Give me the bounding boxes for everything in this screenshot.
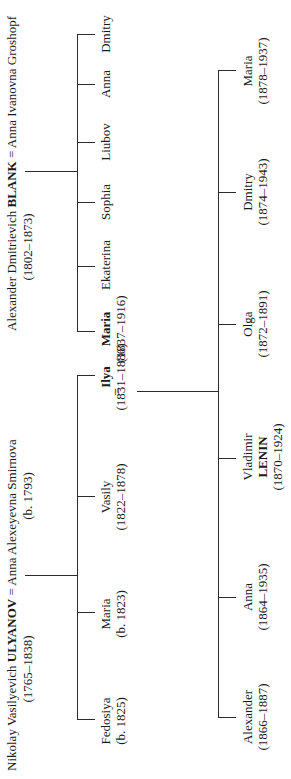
lenin-child-drop xyxy=(218,192,236,193)
sibling-dates: (1870–1924) xyxy=(270,423,285,490)
lenin-child-drop xyxy=(218,717,236,718)
sibling-name: Dmitry xyxy=(240,158,255,225)
child-name: Liubov xyxy=(98,123,113,161)
ulyanov-child: Fedosiya (b. 1825) xyxy=(98,697,128,745)
marriage-sign: = xyxy=(4,588,19,595)
ulyanov-husband-name: Nikolay Vasilyevich xyxy=(4,662,19,771)
blank-child: Liubov xyxy=(98,123,113,161)
blank-child-maria: Maria (1837–1916) xyxy=(98,295,128,362)
marriage-sign-ilya-maria: = xyxy=(110,388,125,396)
blank-husband: Alexander Dmitrievich BLANK = Anna Ivano… xyxy=(4,16,19,331)
blank-child-drop xyxy=(77,142,95,143)
blank-descent-line xyxy=(25,171,77,172)
marriage-sign: = xyxy=(4,151,19,158)
child-dates: (b. 1825) xyxy=(113,697,128,745)
ulyanov-child: Vasily (1822–1878) xyxy=(98,463,128,530)
ulyanov-child-drop xyxy=(77,375,95,376)
marriage-descent-line xyxy=(137,391,218,392)
blank-surname: BLANK xyxy=(4,161,19,207)
ulyanov-descent-line xyxy=(25,575,77,576)
ulyanov-husband: Nikolay Vasilyevich ULYANOV = Anna Alexe… xyxy=(4,439,19,771)
child-name: Maria xyxy=(98,590,113,638)
blank-child: Ekaterina xyxy=(98,240,113,290)
child-name: Anna xyxy=(98,70,113,98)
blank-husband-dates: (1802–1873) xyxy=(20,213,35,280)
sibling-dates: (1872–1891) xyxy=(255,290,270,357)
family-tree-diagram: Nikolay Vasilyevich ULYANOV = Anna Alexe… xyxy=(0,0,291,779)
sibling-name: Anna xyxy=(240,563,255,630)
lenin-sibling: Alexander (1866–1887) xyxy=(240,683,270,750)
blank-wife-name: Anna Ivanovna Groshopf xyxy=(4,16,19,148)
ulyanov-child-drop xyxy=(77,496,95,497)
sibling-dates: (1874–1943) xyxy=(255,158,270,225)
sibling-name: Maria xyxy=(240,37,255,104)
ulyanov-wife-name: Anna Alexeyevna Smirnova xyxy=(4,439,19,586)
sibling-dates: (1864–1935) xyxy=(255,563,270,630)
ulyanov-husband-dates: (1765–1838) xyxy=(20,635,35,702)
child-name: Ekaterina xyxy=(98,240,113,290)
child-dates: (1837–1916) xyxy=(113,295,128,362)
lenin-child-drop xyxy=(218,458,236,459)
lenin-sibling: Anna (1864–1935) xyxy=(240,563,270,630)
lenin-sibling: Maria (1878–1937) xyxy=(240,37,270,104)
blank-child-drop xyxy=(77,331,95,332)
lenin-child-drop xyxy=(218,70,236,71)
child-name: Maria xyxy=(98,295,113,362)
sibling-dates: (1866–1887) xyxy=(255,683,270,750)
sibling-name: Vladimir xyxy=(240,423,255,490)
child-name: Vasily xyxy=(98,463,113,530)
blank-child: Sophia xyxy=(98,184,113,220)
blank-child: Dmitry xyxy=(98,15,113,53)
lenin-sibling-vladimir: Vladimir LENIN (1870–1924) xyxy=(240,423,285,490)
lenin-sibling: Dmitry (1874–1943) xyxy=(240,158,270,225)
ulyanov-sibling-bar xyxy=(77,375,78,720)
child-name: Fedosiya xyxy=(98,697,113,745)
ulyanov-wife-dates: (b. 1793) xyxy=(20,472,35,520)
lenin-sibling: Olga (1872–1891) xyxy=(240,290,270,357)
sibling-surname: LENIN xyxy=(255,423,270,490)
blank-child-drop xyxy=(77,34,95,35)
child-dates: (1822–1878) xyxy=(113,463,128,530)
lenin-child-drop xyxy=(218,324,236,325)
ulyanov-surname: ULYANOV xyxy=(4,599,19,662)
lenin-child-drop xyxy=(218,597,236,598)
blank-child: Anna xyxy=(98,70,113,98)
ulyanov-child: Maria (b. 1823) xyxy=(98,590,128,638)
child-name: Dmitry xyxy=(98,15,113,53)
blank-sibling-bar xyxy=(77,34,78,332)
blank-child-drop xyxy=(77,266,95,267)
blank-child-drop xyxy=(77,202,95,203)
child-name: Sophia xyxy=(98,184,113,220)
ulyanov-child-drop xyxy=(77,719,95,720)
blank-child-drop xyxy=(77,84,95,85)
lenin-sibling-bar xyxy=(218,70,219,718)
sibling-name: Alexander xyxy=(240,683,255,750)
sibling-name: Olga xyxy=(240,290,255,357)
ulyanov-child-drop xyxy=(77,612,95,613)
child-dates: (b. 1823) xyxy=(113,590,128,638)
sibling-dates: (1878–1937) xyxy=(255,37,270,104)
blank-husband-name: Alexander Dmitrievich xyxy=(4,208,19,331)
